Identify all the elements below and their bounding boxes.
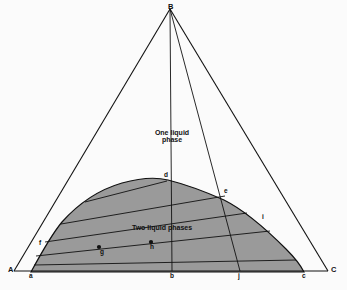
point-label-h: h: [150, 244, 154, 251]
curve-label-d: d: [164, 172, 168, 179]
baseline-label-c-lower: c: [302, 273, 306, 280]
two-liquid-phases-label: Two liquid phases: [116, 224, 208, 231]
one-liquid-phase-line2: phase: [140, 136, 204, 143]
curve-label-i: i: [262, 214, 264, 221]
baseline-label-a-lower: a: [29, 273, 33, 280]
diagram-canvas: [0, 0, 347, 290]
vertex-label-a: A: [8, 266, 13, 274]
one-liquid-phase-label: One liquid phase: [140, 129, 204, 144]
baseline-label-b-lower: b: [170, 273, 174, 280]
point-label-g: g: [100, 249, 104, 256]
curve-label-f-left: f: [39, 240, 41, 247]
vertex-label-c: C: [331, 266, 336, 274]
one-liquid-phase-line1: One liquid: [140, 129, 204, 136]
curve-label-e: e: [224, 188, 228, 195]
vertex-label-b: B: [168, 3, 173, 11]
ternary-phase-diagram: A B C a b j c d e i f g h One liquid pha…: [0, 0, 347, 290]
baseline-label-j: j: [238, 273, 240, 280]
